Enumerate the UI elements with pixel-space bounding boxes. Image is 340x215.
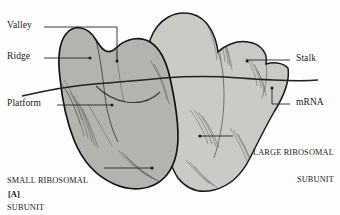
dot-large-subunit: [198, 134, 201, 137]
dot-ridge: [89, 57, 92, 60]
label-ridge: Ridge: [7, 51, 30, 62]
label-large-ribosomal-subunit: LARGE RIBOSOMAL SUBUNIT: [238, 129, 334, 203]
label-small-ribosomal-subunit: SMALL RIBOSOMAL SUBUNIT: [7, 157, 88, 215]
dot-stalk: [246, 60, 249, 63]
label-small-subunit-line1: SMALL RIBOSOMAL: [7, 176, 88, 185]
dot-valley: [115, 59, 118, 62]
label-small-subunit-line2: SUBUNIT: [7, 203, 88, 212]
ribosome-figure: Valley Ridge Platform SMALL RIBOSOMAL SU…: [0, 0, 340, 215]
dot-platform: [111, 104, 114, 107]
panel-tag: [A]: [8, 189, 20, 199]
label-platform: Platform: [7, 98, 41, 109]
label-valley: Valley: [7, 20, 32, 31]
label-large-subunit-line2: SUBUNIT: [238, 175, 334, 184]
dot-small-subunit: [150, 166, 153, 169]
dot-mrna: [271, 87, 274, 90]
label-large-subunit-line1: LARGE RIBOSOMAL: [238, 148, 334, 157]
label-mrna: mRNA: [296, 97, 324, 108]
label-stalk: Stalk: [296, 53, 316, 64]
